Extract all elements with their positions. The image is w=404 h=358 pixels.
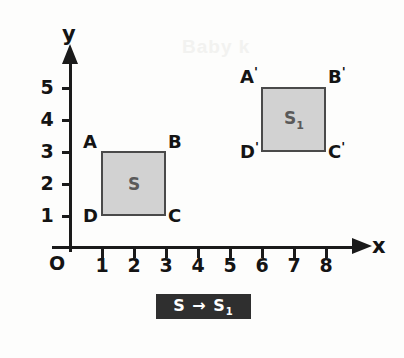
transformation-caption-box: S → S1: [156, 294, 251, 319]
square-s1-name-sub: 1: [296, 119, 304, 132]
y-tick-mark: [62, 151, 71, 154]
vertex-d-prime-text: D: [240, 141, 255, 162]
vertex-label-a-prime: A': [240, 66, 258, 87]
y-axis-label: y: [62, 22, 76, 46]
vertex-c-prime-mark: ': [341, 139, 345, 154]
vertex-d-text: D: [83, 205, 98, 226]
x-tick-label: 8: [316, 254, 336, 276]
y-axis-arrow-icon: [62, 44, 78, 64]
caption-from: S: [173, 296, 186, 315]
x-tick-label: 2: [124, 254, 144, 276]
vertex-a-prime-text: A: [240, 66, 254, 87]
x-tick-label: 1: [92, 254, 112, 276]
square-s1-name-base: S: [284, 108, 296, 128]
caption-to-base: S: [213, 296, 226, 315]
vertex-label-d-prime: D': [240, 141, 259, 162]
figure-canvas: Baby k y x O 5 4 3 2 1 1 2 3 4 5 6 7 8 S…: [0, 0, 404, 358]
y-tick-mark: [62, 87, 71, 90]
y-tick-label: 1: [37, 204, 57, 226]
x-tick-label: 6: [252, 254, 272, 276]
background-ghost-text: Baby k: [182, 36, 250, 58]
vertex-b-prime-text: B: [328, 66, 342, 87]
x-tick-label: 7: [284, 254, 304, 276]
x-axis-label: x: [372, 234, 386, 258]
x-axis-arrow-icon: [352, 238, 372, 254]
vertex-label-c: C: [168, 205, 181, 226]
vertex-a-text: A: [83, 131, 97, 152]
square-s-name-base: S: [128, 174, 140, 194]
origin-label: O: [49, 252, 65, 274]
transformation-caption-text: S → S1: [173, 296, 234, 317]
vertex-b-prime-mark: ': [342, 64, 346, 79]
y-tick-label: 4: [37, 108, 57, 130]
vertex-d-prime-mark: ': [255, 139, 259, 154]
x-tick-label: 5: [220, 254, 240, 276]
square-s-name: S: [128, 174, 140, 194]
vertex-label-a: A: [83, 131, 97, 152]
y-tick-label: 2: [37, 172, 57, 194]
vertex-label-b: B: [168, 131, 182, 152]
vertex-label-d: D: [83, 205, 98, 226]
y-axis-line: [69, 62, 72, 252]
vertex-c-text: C: [168, 205, 181, 226]
y-tick-mark: [62, 119, 71, 122]
vertex-label-c-prime: C': [328, 141, 345, 162]
vertex-label-b-prime: B': [328, 66, 346, 87]
x-tick-label: 3: [156, 254, 176, 276]
y-tick-mark: [62, 183, 71, 186]
y-tick-mark: [62, 215, 71, 218]
vertex-a-prime-mark: ': [254, 64, 258, 79]
x-axis-line: [52, 246, 356, 249]
caption-arrow-icon: →: [192, 296, 206, 315]
vertex-b-text: B: [168, 131, 182, 152]
y-tick-label: 3: [37, 140, 57, 162]
vertex-c-prime-text: C: [328, 141, 341, 162]
x-tick-label: 4: [188, 254, 208, 276]
y-tick-label: 5: [37, 76, 57, 98]
square-s1-name: S1: [284, 108, 304, 131]
caption-to-sub: 1: [226, 306, 234, 317]
